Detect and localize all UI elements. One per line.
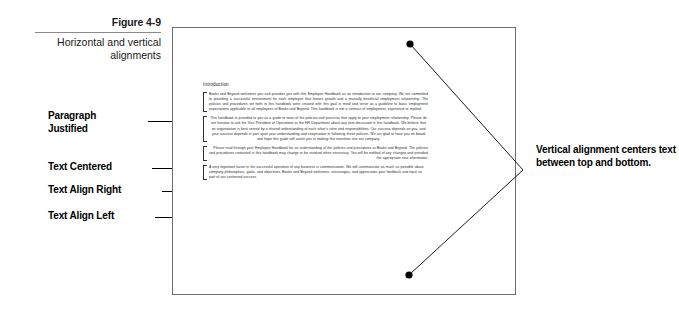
callout-label-text-align-right: Text Align Right	[48, 184, 158, 197]
document-paragraph: A very important factor in the successfu…	[209, 165, 428, 180]
paragraph-block-right-aligned: Please read through your Employee Handbo…	[203, 146, 428, 161]
paragraph-bracket-icon	[203, 116, 207, 141]
document-paragraph: Books and Beyond welcomes you and provid…	[209, 92, 428, 112]
figure-title: Horizontal and vertical alignments	[35, 36, 161, 62]
figure-caption: Figure 4-9 Horizontal and vertical align…	[35, 16, 161, 62]
callout-label-text-align-left: Text Align Left	[48, 210, 158, 223]
paragraph-block-centered: This handbook is provided to you as a gu…	[203, 116, 428, 141]
paragraph-bracket-icon	[203, 165, 207, 180]
callout-label-text-centered: Text Centered	[48, 161, 148, 174]
figure-number: Figure 4-9	[35, 16, 161, 29]
document-paragraph: Please read through your Employee Handbo…	[209, 146, 428, 161]
caption-divider	[35, 32, 161, 33]
paragraph-block-left-aligned: A very important factor in the successfu…	[203, 165, 428, 180]
paragraph-block-justified: Books and Beyond welcomes you and provid…	[203, 92, 428, 112]
paragraph-bracket-icon	[203, 92, 207, 112]
document-heading: Introduction	[203, 82, 428, 88]
callout-label-paragraph-justified: Paragraph Justified	[48, 110, 143, 135]
paragraph-bracket-icon	[203, 146, 207, 161]
callout-label-vertical-alignment: Vertical alignment centers text between …	[536, 143, 676, 169]
document-paragraph: This handbook is provided to you as a gu…	[209, 116, 428, 141]
document-page: Introduction Books and Beyond welcomes y…	[203, 82, 428, 184]
